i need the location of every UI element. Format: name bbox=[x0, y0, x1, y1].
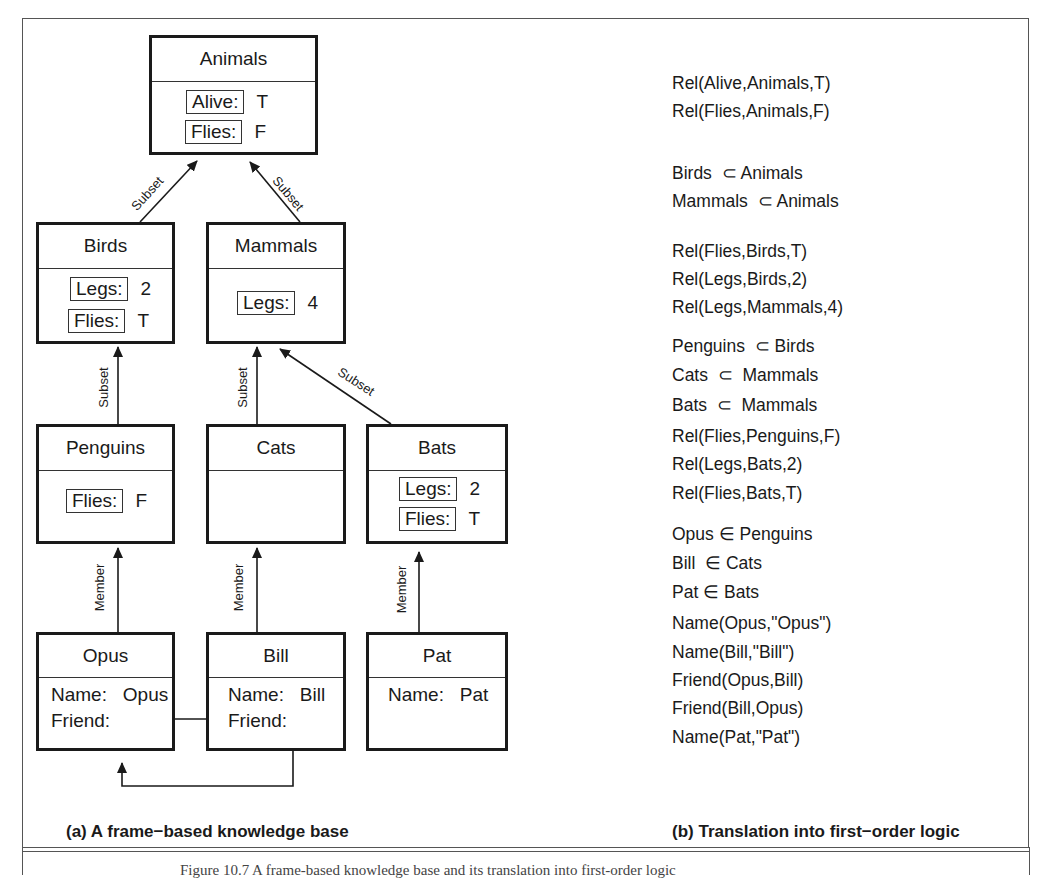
frame-bats: Bats Legs:2 Flies:T bbox=[366, 424, 508, 544]
edge-label-subset: Subset bbox=[96, 367, 111, 407]
frame-title: Opus bbox=[39, 635, 172, 678]
slot-key: Legs: bbox=[70, 277, 128, 301]
slot-key: Flies: bbox=[185, 120, 242, 144]
slot-legs: Legs:4 bbox=[237, 291, 318, 315]
field-friend: Friend: bbox=[228, 710, 287, 732]
slot-key: Flies: bbox=[66, 489, 123, 513]
slot-flies: Flies:F bbox=[66, 489, 147, 513]
slot-flies: Flies:T bbox=[399, 507, 480, 531]
frame-title: Bill bbox=[209, 635, 343, 678]
logic-line: Penguins ⊂ Birds bbox=[672, 336, 814, 357]
logic-line: Rel(Flies,Penguins,F) bbox=[672, 426, 840, 447]
frame-title: Bats bbox=[369, 427, 505, 471]
logic-line: Rel(Alive,Animals,T) bbox=[672, 73, 831, 94]
logic-line: Friend(Opus,Bill) bbox=[672, 670, 803, 691]
logic-line: Rel(Legs,Mammals,4) bbox=[672, 297, 843, 318]
logic-line: Opus ∈ Penguins bbox=[672, 524, 813, 545]
field-name: Name: Opus bbox=[51, 684, 168, 706]
frame-cats: Cats bbox=[206, 424, 346, 544]
frame-title: Birds bbox=[39, 225, 172, 269]
slot-key: Alive: bbox=[186, 90, 244, 114]
edge-label-subset: Subset bbox=[235, 367, 250, 407]
logic-line: Bats ⊂ Mammals bbox=[672, 395, 817, 416]
frame-title: Penguins bbox=[39, 427, 172, 471]
slot-value: F bbox=[135, 490, 147, 512]
logic-line: Name(Pat,"Pat") bbox=[672, 727, 800, 748]
field-key: Name: bbox=[388, 684, 444, 705]
logic-line: Cats ⊂ Mammals bbox=[672, 365, 818, 386]
slot-key: Legs: bbox=[237, 291, 295, 315]
slot-key: Legs: bbox=[399, 477, 457, 501]
field-value: Pat bbox=[460, 684, 489, 705]
frame-penguins: Penguins Flies:F bbox=[36, 424, 175, 544]
field-name: Name: Bill bbox=[228, 684, 325, 706]
logic-line: Rel(Flies,Birds,T) bbox=[672, 241, 807, 262]
slot-flies: Flies:F bbox=[185, 120, 266, 144]
field-value: Opus bbox=[123, 684, 168, 705]
frame-title: Pat bbox=[369, 635, 505, 678]
frame-bill: Bill Name: Bill Friend: bbox=[206, 632, 346, 751]
logic-line: Rel(Flies,Bats,T) bbox=[672, 483, 802, 504]
slot-value: 2 bbox=[140, 278, 151, 300]
logic-line: Friend(Bill,Opus) bbox=[672, 698, 803, 719]
frame-title: Cats bbox=[209, 427, 343, 471]
frame-opus: Opus Name: Opus Friend: bbox=[36, 632, 175, 751]
frame-title: Mammals bbox=[209, 225, 343, 269]
field-friend: Friend: bbox=[51, 710, 110, 732]
slot-value: 4 bbox=[307, 292, 318, 314]
slot-value: T bbox=[256, 91, 268, 113]
caption-b: (b) Translation into first−order logic bbox=[672, 822, 960, 842]
frame-title: Animals bbox=[152, 38, 315, 82]
figure-caption: Figure 10.7 A frame-based knowledge base… bbox=[180, 862, 676, 879]
field-name: Name: Pat bbox=[388, 684, 488, 706]
slot-alive: Alive:T bbox=[186, 90, 268, 114]
edge-label-member: Member bbox=[92, 564, 107, 612]
slot-value: 2 bbox=[469, 478, 480, 500]
slot-key: Flies: bbox=[68, 309, 125, 333]
frame-birds: Birds Legs:2 Flies:T bbox=[36, 222, 175, 344]
caption-a: (a) A frame−based knowledge base bbox=[66, 822, 349, 842]
frame-animals: Animals Alive:T Flies:F bbox=[149, 35, 318, 155]
logic-line: Rel(Flies,Animals,F) bbox=[672, 101, 830, 122]
slot-legs: Legs:2 bbox=[70, 277, 151, 301]
field-key: Friend: bbox=[228, 710, 287, 731]
field-key: Friend: bbox=[51, 710, 110, 731]
slot-value: T bbox=[137, 310, 149, 332]
frame-mammals: Mammals Legs:4 bbox=[206, 222, 346, 344]
logic-line: Bill ∈ Cats bbox=[672, 553, 762, 574]
logic-line: Name(Opus,"Opus") bbox=[672, 613, 831, 634]
field-value: Bill bbox=[300, 684, 325, 705]
slot-value: F bbox=[254, 121, 266, 143]
edge-label-member: Member bbox=[394, 566, 409, 614]
logic-line: Rel(Legs,Birds,2) bbox=[672, 269, 807, 290]
slot-flies: Flies:T bbox=[68, 309, 149, 333]
slot-legs: Legs:2 bbox=[399, 477, 480, 501]
logic-line: Mammals ⊂ Animals bbox=[672, 191, 839, 212]
slot-key: Flies: bbox=[399, 507, 456, 531]
logic-line: Rel(Legs,Bats,2) bbox=[672, 454, 802, 475]
frame-pat: Pat Name: Pat bbox=[366, 632, 508, 751]
logic-line: Pat ∈ Bats bbox=[672, 582, 759, 603]
edge-label-member: Member bbox=[231, 564, 246, 612]
logic-line: Name(Bill,"Bill") bbox=[672, 642, 794, 663]
field-key: Name: bbox=[51, 684, 107, 705]
field-key: Name: bbox=[228, 684, 284, 705]
logic-line: Birds ⊂ Animals bbox=[672, 163, 803, 184]
slot-value: T bbox=[468, 508, 480, 530]
